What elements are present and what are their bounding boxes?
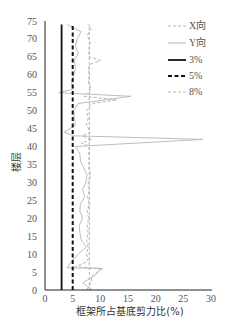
legend-item-8pct: 8% [168,86,202,97]
y-tick-label: 40 [27,141,37,152]
svg-text:Y向: Y向 [189,36,206,48]
legend-item-y: Y向 [168,36,206,48]
x-tick-label: 0 [43,293,48,304]
y-tick-label: 75 [27,16,37,27]
series-y-dir [59,25,203,290]
x-tick-label: 10 [95,293,105,304]
y-tick-label: 60 [27,69,37,80]
legend-item-3pct: 3% [168,54,202,65]
svg-text:5%: 5% [189,70,202,81]
x-tick-label: 25 [178,293,188,304]
y-tick-label: 0 [32,285,37,296]
y-tick-label: 20 [27,213,37,224]
y-tick-label: 50 [27,105,37,116]
plot-area [59,25,203,290]
y-tick-label: 5 [32,267,37,278]
y-tick-label: 55 [27,87,37,98]
y-tick-label: 10 [27,249,37,260]
x-tick-label: 5 [70,293,75,304]
y-tick-label: 35 [27,159,37,170]
x-tick-label: 20 [151,293,161,304]
y-tick-label: 65 [27,51,37,62]
y-axis-label: 楼层 [10,152,22,172]
y-tick-label: 15 [27,231,37,242]
legend-item-5pct: 5% [168,70,202,81]
series-x-dir [75,25,117,290]
x-tick-label: 30 [206,293,216,304]
y-tick-label: 30 [27,177,37,188]
y-tick-label: 45 [27,123,37,134]
y-tick-labels: 051015202530354045505560657075 [27,16,37,296]
svg-text:X向: X向 [189,19,206,31]
x-axis-label: 框架所占基底剪力比(%) [76,305,183,317]
svg-text:3%: 3% [189,54,202,65]
y-tick-label: 25 [27,195,37,206]
svg-text:8%: 8% [189,86,202,97]
x-tick-labels: 051015202530 [43,293,217,304]
legend: X向 Y向 3% 5% 8% [168,19,206,97]
x-tick-label: 15 [123,293,133,304]
y-tick-label: 70 [27,33,37,44]
legend-item-x: X向 [168,19,206,31]
chart: 051015202530 051015202530354045505560657… [0,0,230,335]
